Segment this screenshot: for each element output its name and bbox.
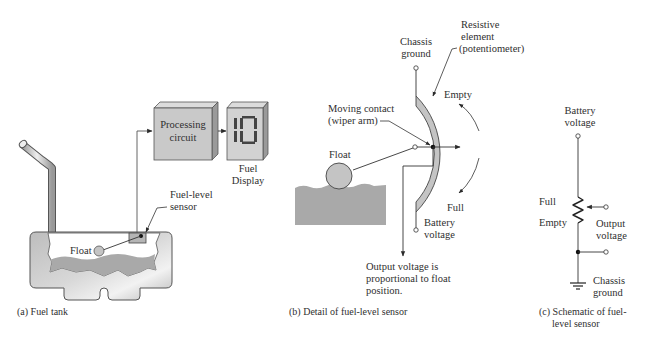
caption-b: (b) Detail of fuel-level sensor xyxy=(289,306,408,318)
fuel-block xyxy=(295,184,386,225)
fuel-sensor-diagram: Float Fuel-level sensor Processing circu… xyxy=(0,0,651,344)
resistive-label-line2: element xyxy=(461,31,494,42)
chassis-ground-label-b-line2: ground xyxy=(401,48,431,59)
display-label-line2: Display xyxy=(232,175,265,186)
resistive-label-line1: Resistive xyxy=(461,19,500,30)
output-note-line1: Output voltage is xyxy=(366,261,438,272)
chassis-ground-label-c-line1: Chassis xyxy=(593,275,625,286)
display-label-line1: Fuel xyxy=(239,163,258,174)
float-b xyxy=(326,163,352,189)
float-label-b: Float xyxy=(329,149,351,160)
caption-c-line2: level sensor xyxy=(552,318,600,329)
caption-c-line1: (c) Schematic of fuel- xyxy=(539,306,626,318)
chassis-ground-label-b-line1: Chassis xyxy=(400,36,432,47)
float xyxy=(94,246,104,256)
panel-b-sensor-detail: Chassis ground Resistive element (potent… xyxy=(289,19,525,318)
battery-voltage-label-b-line1: Battery xyxy=(424,217,456,228)
filler-pipe xyxy=(18,139,52,236)
output-note-line2: proportional to float xyxy=(366,273,451,284)
battery-voltage-label-b-line2: voltage xyxy=(424,229,455,240)
processing-label-line2: circuit xyxy=(170,132,197,143)
moving-contact-label-line1: Moving contact xyxy=(328,103,394,114)
output-note-line3: position. xyxy=(366,285,402,296)
moving-contact-label-line2: (wiper arm) xyxy=(328,115,378,127)
ground-symbol xyxy=(570,283,586,289)
fuel-level-sensor xyxy=(129,233,146,243)
potentiometer-symbol xyxy=(573,197,583,223)
full-label-c: Full xyxy=(539,196,556,207)
sensor-label-line2: sensor xyxy=(170,201,197,212)
panel-a-fuel-tank: Float Fuel-level sensor Processing circu… xyxy=(17,102,268,318)
empty-label-b: Empty xyxy=(444,89,473,100)
resistive-label-line3: (potentiometer) xyxy=(459,43,525,55)
float-label-a: Float xyxy=(70,245,92,256)
processing-circuit-box: Processing circuit xyxy=(154,102,218,160)
panel-c-schematic: Battery voltage Full Empty Output voltag… xyxy=(539,105,627,329)
full-label-b: Full xyxy=(447,202,464,213)
output-voltage-label-line1: Output xyxy=(596,218,625,229)
caption-a: (a) Fuel tank xyxy=(17,306,68,318)
battery-voltage-label-c-line1: Battery xyxy=(565,105,597,116)
output-voltage-label-line2: voltage xyxy=(596,230,627,241)
resistive-element-arc xyxy=(416,96,440,212)
processing-label-line1: Processing xyxy=(160,119,206,130)
sensor-label-line1: Fuel-level xyxy=(170,189,213,200)
battery-voltage-label-c-line2: voltage xyxy=(565,117,596,128)
chassis-ground-label-c-line2: ground xyxy=(593,287,623,298)
fuel-display-box xyxy=(227,102,268,160)
empty-label-c: Empty xyxy=(539,217,568,228)
